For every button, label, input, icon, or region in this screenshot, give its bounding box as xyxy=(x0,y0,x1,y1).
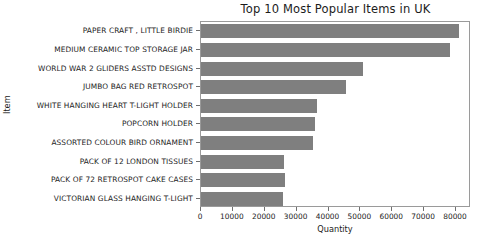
bar-chart-figure: Top 10 Most Popular Items in UK Item PAP… xyxy=(0,0,491,245)
bar-fill xyxy=(201,62,363,76)
bar-8 xyxy=(201,155,284,169)
y-tick-label-6: POPCORN HOLDER xyxy=(122,119,193,128)
y-tick-label-5: WHITE HANGING HEART T-LIGHT HOLDER xyxy=(37,100,193,109)
bar-fill xyxy=(201,80,346,94)
y-axis-tick-labels: PAPER CRAFT , LITTLE BIRDIEMEDIUM CERAMI… xyxy=(0,21,193,207)
x-tick-mark-4 xyxy=(296,207,297,211)
bar-fill xyxy=(201,43,450,57)
bar-4 xyxy=(201,80,346,94)
chart-title: Top 10 Most Popular Items in UK xyxy=(200,2,471,16)
x-tick-mark-2 xyxy=(232,207,233,211)
bar-fill xyxy=(201,99,317,113)
x-axis-label: Quantity xyxy=(200,224,470,234)
x-tick-mark-8 xyxy=(423,207,424,211)
x-tick-label-4: 30000 xyxy=(284,212,308,221)
x-tick-mark-7 xyxy=(391,207,392,211)
y-tick-label-10: VICTORIAN GLASS HANGING T-LIGHT xyxy=(54,193,193,202)
y-tick-label-1: PAPER CRAFT , LITTLE BIRDIE xyxy=(83,26,193,35)
bar-1 xyxy=(201,24,459,38)
x-tick-label-8: 70000 xyxy=(411,212,435,221)
y-tick-label-3: WORLD WAR 2 GLIDERS ASSTD DESIGNS xyxy=(38,63,193,72)
bar-6 xyxy=(201,117,315,131)
x-tick-label-5: 40000 xyxy=(316,212,340,221)
bar-fill xyxy=(201,192,283,206)
x-tick-mark-1 xyxy=(200,207,201,211)
x-tick-label-1: 0 xyxy=(198,212,203,221)
bar-5 xyxy=(201,99,317,113)
bar-9 xyxy=(201,173,285,187)
bar-fill xyxy=(201,173,285,187)
y-tick-label-8: PACK OF 12 LONDON TISSUES xyxy=(80,156,193,165)
bar-fill xyxy=(201,117,315,131)
bar-2 xyxy=(201,43,450,57)
y-tick-label-9: PACK OF 72 RETROSPOT CAKE CASES xyxy=(51,175,193,184)
x-tick-mark-5 xyxy=(328,207,329,211)
x-tick-mark-6 xyxy=(359,207,360,211)
x-tick-label-3: 20000 xyxy=(252,212,276,221)
bar-10 xyxy=(201,192,283,206)
x-tick-label-9: 80000 xyxy=(443,212,467,221)
x-tick-label-7: 60000 xyxy=(379,212,403,221)
x-tick-mark-3 xyxy=(264,207,265,211)
bar-fill xyxy=(201,136,313,150)
x-tick-label-2: 10000 xyxy=(220,212,244,221)
y-tick-label-4: JUMBO BAG RED RETROSPOT xyxy=(83,82,193,91)
plot-area xyxy=(200,21,470,207)
y-tick-label-7: ASSORTED COLOUR BIRD ORNAMENT xyxy=(51,137,193,146)
x-tick-mark-9 xyxy=(455,207,456,211)
y-tick-label-2: MEDIUM CERAMIC TOP STORAGE JAR xyxy=(54,44,193,53)
bar-3 xyxy=(201,62,363,76)
bar-fill xyxy=(201,24,459,38)
bar-fill xyxy=(201,155,284,169)
x-tick-label-6: 50000 xyxy=(348,212,372,221)
bar-7 xyxy=(201,136,313,150)
